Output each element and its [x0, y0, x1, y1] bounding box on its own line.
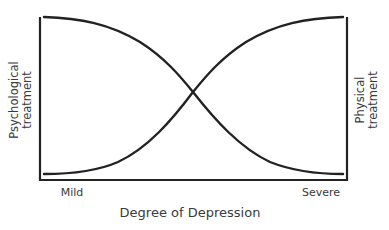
- physical-treatment-curve: [44, 17, 343, 174]
- left-axis-label-line2: treatment: [20, 71, 34, 129]
- left-axis-label-line1: Psychological: [7, 61, 21, 138]
- axes-frame: [40, 17, 347, 180]
- treatment-crossover-diagram: Psychological treatment Physical treatme…: [0, 0, 389, 230]
- x-axis-title: Degree of Depression: [120, 205, 261, 220]
- x-min-label: Mild: [61, 186, 84, 199]
- x-max-label: Severe: [302, 186, 340, 199]
- right-axis-label-line2: treatment: [366, 71, 380, 129]
- psychological-treatment-curve: [44, 17, 343, 174]
- right-axis-label-line1: Physical: [353, 77, 367, 124]
